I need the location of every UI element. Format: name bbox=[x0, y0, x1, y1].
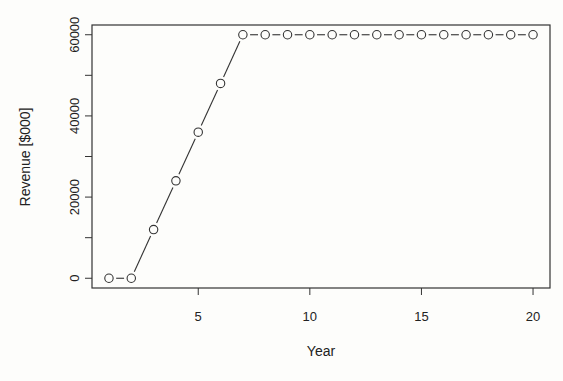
y-tick-label: 20000 bbox=[67, 179, 82, 215]
y-axis: 0200004000060000 bbox=[67, 17, 92, 282]
data-point-marker bbox=[417, 31, 425, 39]
x-axis: 5101520 bbox=[195, 288, 541, 324]
data-point-marker bbox=[239, 31, 247, 39]
data-point-marker bbox=[216, 79, 224, 87]
series-segment bbox=[179, 139, 195, 175]
series-segment bbox=[157, 187, 173, 223]
y-tick-label: 60000 bbox=[67, 17, 82, 53]
data-point-marker bbox=[350, 31, 358, 39]
data-point-marker bbox=[529, 31, 537, 39]
x-tick-label: 5 bbox=[195, 309, 202, 324]
y-axis-label: Revenue [$000] bbox=[17, 108, 33, 207]
data-point-marker bbox=[462, 31, 470, 39]
series-segment bbox=[224, 41, 240, 77]
x-tick-label: 15 bbox=[414, 309, 428, 324]
revenue-line-chart: 0200004000060000 5101520 Year Revenue [$… bbox=[0, 0, 563, 381]
data-point-marker bbox=[373, 31, 381, 39]
data-point-marker bbox=[194, 128, 202, 136]
data-point-marker bbox=[440, 31, 448, 39]
data-point-marker bbox=[306, 31, 314, 39]
series-segment bbox=[201, 90, 217, 126]
y-tick-label: 40000 bbox=[67, 98, 82, 134]
data-point-marker bbox=[328, 31, 336, 39]
data-point-marker bbox=[283, 31, 291, 39]
data-point-marker bbox=[149, 225, 157, 233]
x-tick-label: 20 bbox=[526, 309, 540, 324]
data-point-marker bbox=[172, 177, 180, 185]
data-point-marker bbox=[105, 274, 113, 282]
plot-frame bbox=[92, 25, 550, 288]
data-series bbox=[105, 31, 537, 283]
x-tick-label: 10 bbox=[303, 309, 317, 324]
data-point-marker bbox=[507, 31, 515, 39]
data-point-marker bbox=[261, 31, 269, 39]
data-point-marker bbox=[127, 274, 135, 282]
data-point-marker bbox=[395, 31, 403, 39]
y-tick-label: 0 bbox=[67, 275, 82, 282]
data-point-marker bbox=[484, 31, 492, 39]
series-segment bbox=[134, 236, 150, 272]
x-axis-label: Year bbox=[307, 343, 336, 359]
